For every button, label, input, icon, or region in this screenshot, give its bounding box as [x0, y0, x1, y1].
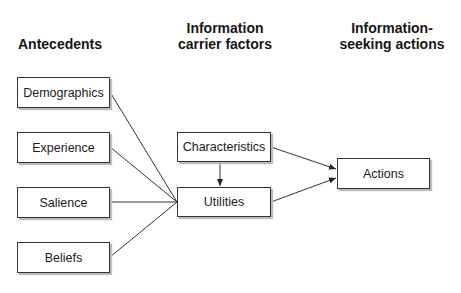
- node-experience: Experience: [17, 132, 110, 163]
- header-carrier-line2: carrier factors: [165, 36, 285, 52]
- header-carrier-line1: Information: [165, 20, 285, 36]
- header-actions-line2: seeking actions: [323, 36, 461, 52]
- node-demographics: Demographics: [17, 77, 110, 108]
- node-utilities: Utilities: [177, 187, 271, 217]
- node-label: Demographics: [23, 86, 104, 100]
- node-actions: Actions: [337, 158, 430, 189]
- node-beliefs: Beliefs: [17, 242, 110, 273]
- node-salience: Salience: [17, 187, 110, 218]
- header-information-seeking-actions: Information- seeking actions: [323, 20, 461, 52]
- header-actions-line1: Information-: [323, 20, 461, 36]
- node-label: Beliefs: [45, 251, 83, 265]
- node-label: Salience: [40, 196, 88, 210]
- header-antecedents: Antecedents: [18, 36, 118, 52]
- header-information-carrier-factors: Information carrier factors: [165, 20, 285, 52]
- node-label: Utilities: [204, 195, 244, 209]
- node-label: Actions: [363, 167, 404, 181]
- header-antecedents-text: Antecedents: [18, 36, 102, 52]
- node-label: Experience: [32, 141, 95, 155]
- node-label: Characteristics: [183, 140, 266, 154]
- node-characteristics: Characteristics: [177, 132, 271, 162]
